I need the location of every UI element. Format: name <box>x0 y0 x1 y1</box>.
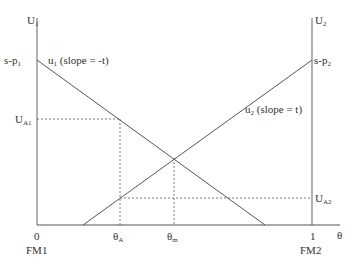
u1-curve-label: u1 (slope = -t) <box>48 55 109 68</box>
fm2-label: FM2 <box>300 245 321 256</box>
fm1-label: FM1 <box>26 245 47 256</box>
ua1-label: UA1 <box>15 114 32 127</box>
left-axis-label: U1 <box>27 15 38 28</box>
origin-label: 0 <box>34 231 40 242</box>
theta-m-label: θm <box>167 231 178 244</box>
theta-a-label: θA <box>113 231 123 244</box>
right-axis-label: U2 <box>315 15 326 28</box>
diagram-canvas <box>0 0 358 264</box>
u2-curve-label: u2 (slope = t) <box>245 104 302 117</box>
ua2-label: UA2 <box>315 193 332 206</box>
u1-line <box>37 60 265 225</box>
x-axis-label: θ <box>337 230 342 241</box>
u2-intercept-label: s-p2 <box>314 55 331 68</box>
end-label: 1 <box>310 231 316 242</box>
u1-intercept-label: s-p1 <box>4 55 21 68</box>
u2-line <box>83 60 312 225</box>
